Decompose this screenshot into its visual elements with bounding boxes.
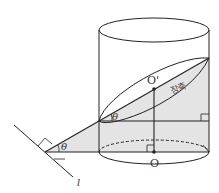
- cylinder-top-ellipse: [99, 18, 209, 42]
- point-O-prime: [152, 87, 156, 91]
- right-angle-mark-l-upper: [38, 138, 52, 146]
- label-O-prime: O': [147, 74, 159, 87]
- point-O: [152, 150, 156, 154]
- label-theta-upper: θ: [112, 111, 118, 122]
- label-O: O: [150, 157, 159, 170]
- label-line-l: l: [77, 177, 80, 188]
- cylinder-section-diagram: O' O 장축 θ θ l: [0, 0, 219, 193]
- label-theta-lower: θ: [61, 141, 67, 152]
